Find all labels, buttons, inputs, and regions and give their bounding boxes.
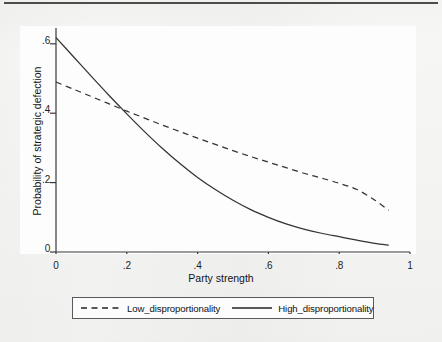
chart-figure: .6 .4 .2 0 0 .2 .4 .6 .8 1 Party strengt… (0, 0, 442, 342)
y-tick-marks (50, 44, 56, 252)
x-tick-label-4: .8 (327, 260, 351, 271)
x-tick-label-3: .6 (256, 260, 280, 271)
top-horizontal-rule (4, 2, 438, 4)
x-tick-label-5: 1 (398, 260, 422, 271)
legend-swatch-dashed-icon (80, 303, 122, 313)
x-tick-label-1: .2 (115, 260, 139, 271)
plot-canvas (20, 26, 416, 254)
legend-entry-high-disproportionality[interactable]: High_disproportionality (220, 298, 373, 318)
series-line-low-disproportionality (56, 82, 389, 210)
series-line-high-disproportionality (56, 38, 389, 246)
y-tick-label-3: 0 (28, 243, 50, 254)
y-axis-title-wrapper: Probability of strategic defection (27, 41, 45, 241)
x-axis-title: Party strength (0, 272, 442, 284)
chart-legend: Low_disproportionality High_disproportio… (72, 297, 374, 319)
y-axis-title: Probability of strategic defection (31, 67, 43, 216)
x-tick-label-0: 0 (44, 260, 68, 271)
x-tick-label-2: .4 (186, 260, 210, 271)
legend-label-high-disproportionality: High_disproportionality (278, 303, 373, 314)
legend-swatch-solid-icon (231, 303, 273, 313)
legend-entry-low-disproportionality[interactable]: Low_disproportionality (73, 298, 220, 318)
legend-label-low-disproportionality: Low_disproportionality (127, 303, 220, 314)
